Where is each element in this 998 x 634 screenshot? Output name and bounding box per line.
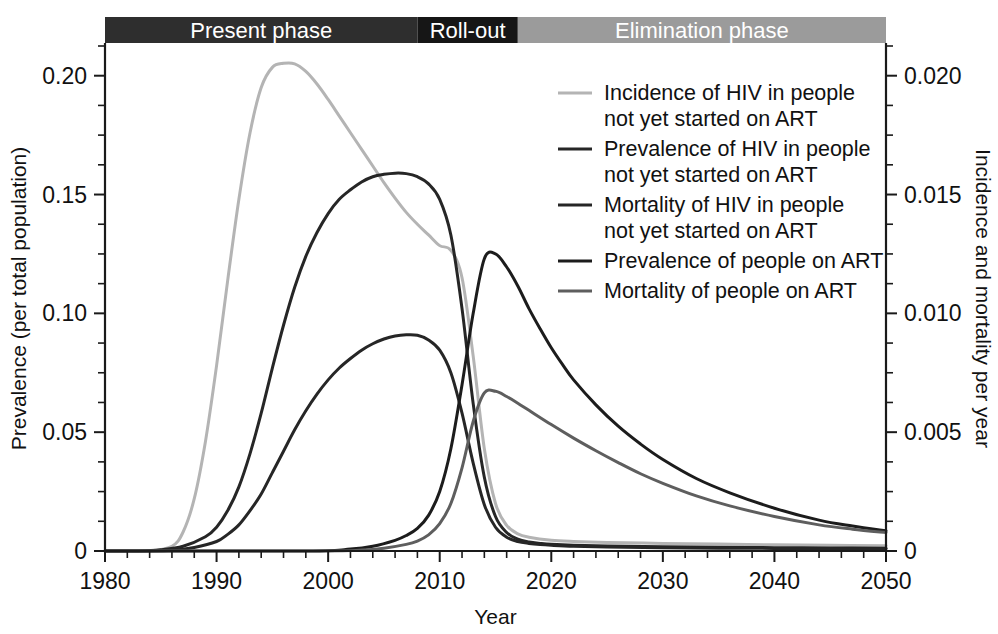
y-tick-label-right: 0.015 <box>904 182 962 208</box>
chart-figure: Present phaseRoll-outElimination phase 1… <box>0 0 998 634</box>
phase-band-label: Roll-out <box>430 18 506 43</box>
phase-band-group: Present phaseRoll-outElimination phase <box>105 17 886 43</box>
x-tick-label: 2010 <box>414 568 465 594</box>
y-tick-label-right: 0.005 <box>904 419 962 445</box>
legend-label-4: Prevalence of people on ART <box>604 249 883 273</box>
y-tick-label-right: 0.020 <box>904 63 962 89</box>
legend-label-3: Mortality of HIV in people <box>604 193 844 217</box>
legend-label-3-line2: not yet started on ART <box>604 219 818 243</box>
phase-band-label: Present phase <box>190 18 332 43</box>
x-axis-title: Year <box>474 605 516 628</box>
chart-legend: Incidence of HIV in peoplenot yet starte… <box>558 81 883 303</box>
y-axis-title-left: Prevalence (per total population) <box>7 147 30 451</box>
y-tick-label-right: 0.010 <box>904 300 962 326</box>
x-tick-label: 2050 <box>860 568 911 594</box>
y-tick-label-left: 0 <box>74 538 87 564</box>
y-tick-label-right: 0 <box>904 538 917 564</box>
x-tick-label: 2040 <box>749 568 800 594</box>
y-tick-label-left: 0.05 <box>42 419 87 445</box>
x-tick-label: 1980 <box>79 568 130 594</box>
legend-label-5: Mortality of people on ART <box>604 279 857 303</box>
y-tick-label-left: 0.15 <box>42 182 87 208</box>
legend-label-2: Prevalence of HIV in people <box>604 137 871 161</box>
y-axis-title-right: Incidence and mortality per year <box>972 149 995 448</box>
phase-band-label: Elimination phase <box>615 18 789 43</box>
legend-label-2-line2: not yet started on ART <box>604 163 818 187</box>
axis-titles-group: YearPrevalence (per total population)Inc… <box>7 147 995 628</box>
legend-label-1: Incidence of HIV in people <box>604 81 855 105</box>
y-tick-label-left: 0.10 <box>42 300 87 326</box>
x-tick-label: 2030 <box>637 568 688 594</box>
hiv-projection-line-chart: Present phaseRoll-outElimination phase 1… <box>0 0 998 634</box>
y-tick-label-left: 0.20 <box>42 63 87 89</box>
x-tick-label: 2020 <box>526 568 577 594</box>
x-tick-label: 1990 <box>191 568 242 594</box>
legend-label-1-line2: not yet started on ART <box>604 107 818 131</box>
x-tick-label: 2000 <box>303 568 354 594</box>
